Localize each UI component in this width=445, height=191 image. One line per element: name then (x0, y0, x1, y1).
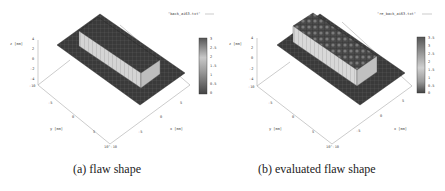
svg-text:-4: -4 (249, 77, 253, 81)
corner-label: 10^-10 (104, 145, 117, 149)
svg-text:4: 4 (32, 37, 34, 41)
svg-text:0: 0 (32, 57, 34, 61)
corner-label: 10^-10 (326, 145, 339, 149)
colorbar-ticks: 3.5 3 2.5 2 1.5 1 0.5 0 (428, 36, 435, 95)
figure-panel-a: 3 2.5 2 1.5 1 0.5 0 "back_ai63.txt" z [m… (0, 0, 222, 150)
svg-text:0: 0 (428, 91, 430, 95)
svg-text:2.5: 2.5 (210, 46, 217, 50)
figure-panel-b: 3.5 3 2.5 2 1.5 1 0.5 0 "re_back_ai63.tx… (222, 0, 445, 150)
svg-text:1.5: 1.5 (428, 68, 435, 72)
surface-plot-b: 3.5 3 2.5 2 1.5 1 0.5 0 "re_back_ai63.tx… (222, 0, 445, 150)
caption-b: (b) evaluated flaw shape (258, 162, 376, 177)
svg-text:5: 5 (312, 130, 314, 134)
svg-text:1.5: 1.5 (210, 64, 217, 68)
svg-text:-2: -2 (30, 67, 34, 71)
legend-label: "re_back_ai63.txt" (377, 12, 416, 16)
y-axis-label: y [mm] (50, 127, 63, 131)
svg-text:0.5: 0.5 (428, 84, 435, 88)
svg-text:2: 2 (251, 46, 253, 50)
svg-text:0: 0 (160, 115, 162, 119)
svg-text:-5: -5 (138, 130, 142, 134)
surface-plot-a: 3 2.5 2 1.5 1 0.5 0 "back_ai63.txt" z [m… (0, 0, 222, 150)
caption-a: (a) flaw shape (73, 162, 141, 177)
z-axis-label: z [mm] (10, 42, 23, 46)
svg-text:3: 3 (428, 44, 430, 48)
z-axis-ticks: 4 2 0 -2 -4 -10 (29, 37, 36, 88)
svg-text:2: 2 (210, 55, 212, 59)
svg-text:0: 0 (380, 114, 382, 118)
svg-text:0.5: 0.5 (210, 82, 217, 86)
svg-text:-2: -2 (249, 67, 253, 71)
svg-text:3: 3 (210, 37, 212, 41)
svg-text:5: 5 (180, 101, 182, 105)
y-axis-label: y [mm] (269, 127, 282, 131)
svg-text:-10: -10 (248, 85, 255, 89)
colorbar-ticks: 3 2.5 2 1.5 1 0.5 0 (210, 37, 217, 95)
svg-text:5: 5 (402, 99, 404, 103)
svg-text:2: 2 (32, 47, 34, 51)
svg-text:5: 5 (93, 130, 95, 134)
legend-label: "back_ai63.txt" (168, 12, 200, 16)
svg-text:-5: -5 (48, 101, 52, 105)
svg-text:-10: -10 (29, 84, 36, 88)
svg-text:1: 1 (428, 76, 430, 80)
z-axis-label: z [mm] (229, 42, 242, 46)
svg-text:-5: -5 (356, 129, 360, 133)
svg-text:2.5: 2.5 (428, 52, 435, 56)
svg-text:0: 0 (251, 56, 253, 60)
colorbar (417, 37, 425, 93)
svg-text:-5: -5 (268, 101, 272, 105)
z-axis-ticks: 4 2 0 -2 -4 -10 (248, 36, 255, 89)
x-axis-label: x [mm] (170, 127, 183, 131)
svg-text:3.5: 3.5 (428, 36, 435, 40)
svg-text:2: 2 (428, 60, 430, 64)
svg-text:4: 4 (251, 36, 253, 40)
svg-text:0: 0 (292, 115, 294, 119)
svg-text:-4: -4 (30, 77, 34, 81)
x-axis-label: x [mm] (394, 127, 407, 131)
svg-text:1: 1 (210, 73, 212, 77)
svg-text:0: 0 (72, 115, 74, 119)
colorbar (199, 38, 207, 94)
svg-text:0: 0 (210, 91, 212, 95)
